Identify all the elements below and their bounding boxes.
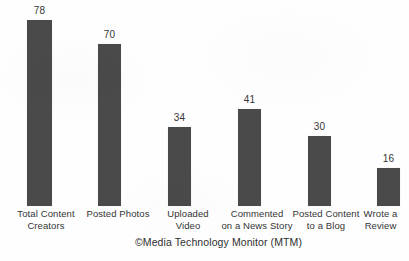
chart-attribution: ©Media Technology Monitor (MTM) xyxy=(0,236,409,249)
bar-value-label: 16 xyxy=(383,153,395,164)
bar-value-label: 70 xyxy=(104,29,116,40)
bar-rect xyxy=(168,127,191,206)
chart-plot-area: 78 70 34 41 30 16 xyxy=(0,0,409,206)
bar-group-posted-content-to-a-blog: 30 xyxy=(308,0,331,206)
bar-group-total-content-creators: 78 xyxy=(27,0,52,206)
bar-chart-figure: 78 70 34 41 30 16 Total Content Creato xyxy=(0,0,409,261)
category-label-line2: Review xyxy=(352,220,409,232)
bar-rect xyxy=(98,44,121,206)
bar-rect xyxy=(27,20,52,206)
bar-group-wrote-a-review: 16 xyxy=(377,0,400,206)
bar-rect xyxy=(308,136,331,206)
bar-group-uploaded-video: 34 xyxy=(168,0,191,206)
bar-value-label: 30 xyxy=(314,121,326,132)
bar-value-label: 78 xyxy=(34,5,46,16)
bar-group-commented-on-a-news-story: 41 xyxy=(238,0,261,206)
bar-group-posted-photos: 70 xyxy=(98,0,121,206)
bar-rect xyxy=(238,109,261,206)
bar-rect xyxy=(377,168,400,206)
bar-value-label: 34 xyxy=(174,112,186,123)
chart-baseline xyxy=(0,205,409,206)
category-label-wrote-a-review: Wrote a Review xyxy=(352,208,409,232)
category-label-line1: Wrote a xyxy=(352,208,409,220)
bar-value-label: 41 xyxy=(244,94,256,105)
category-label-line2: Creators xyxy=(0,220,92,232)
